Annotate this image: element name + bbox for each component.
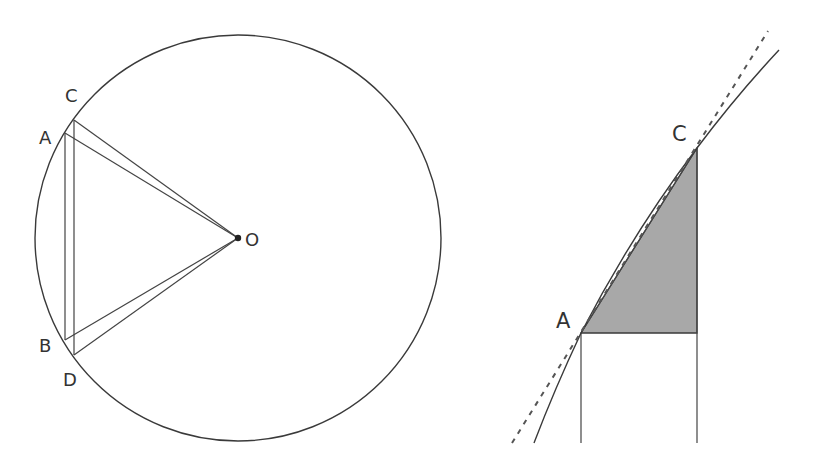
geometry-diagram: C A B D O A C: [0, 0, 813, 467]
radius-OC: [74, 120, 238, 238]
label-C-right: C: [672, 122, 687, 146]
label-D: D: [63, 369, 77, 390]
label-C: C: [65, 85, 78, 106]
label-O: O: [245, 229, 259, 250]
radius-OB: [65, 238, 238, 340]
radius-OD: [74, 238, 238, 355]
radius-OA: [65, 133, 238, 238]
label-A: A: [39, 127, 52, 148]
label-A-right: A: [556, 309, 571, 333]
center-point-O: [235, 235, 241, 241]
left-figure: C A B D O: [35, 35, 441, 441]
label-B: B: [39, 335, 51, 356]
right-figure: A C: [512, 31, 779, 443]
tangent-line: [512, 31, 768, 443]
